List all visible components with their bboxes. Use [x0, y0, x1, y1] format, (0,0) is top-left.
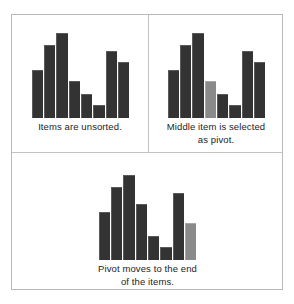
caption-pivot-selected: Middle item is selected as pivot.	[149, 121, 283, 146]
quicksort-pivot-diagram: Items are unsorted. Middle item is selec…	[11, 14, 283, 290]
bar	[44, 45, 55, 118]
bar	[106, 51, 117, 118]
pivot-bar	[205, 81, 216, 118]
panel-items-unsorted: Items are unsorted.	[12, 15, 149, 153]
bar	[136, 204, 147, 260]
bar-chart-pivot-selected	[167, 33, 266, 118]
bar	[56, 33, 67, 118]
bar	[168, 70, 179, 118]
caption-pivot-moved: Pivot moves to the end of the items.	[12, 263, 283, 288]
bar	[69, 81, 80, 118]
bar	[118, 62, 129, 118]
bar-chart-pivot-moved	[98, 175, 197, 260]
bar	[123, 175, 134, 260]
bar	[93, 105, 104, 118]
caption-line: Middle item is selected	[149, 121, 283, 134]
pivot-bar	[185, 223, 196, 260]
bar	[111, 187, 122, 260]
bar	[180, 45, 191, 118]
bar	[81, 94, 92, 118]
bar	[160, 247, 171, 260]
caption-line: as pivot.	[149, 134, 283, 147]
bar	[32, 70, 43, 118]
caption-items-unsorted: Items are unsorted.	[12, 121, 148, 134]
bar	[99, 212, 110, 260]
bar	[254, 62, 265, 118]
bar	[148, 236, 159, 260]
bar	[242, 51, 253, 118]
bar	[192, 33, 203, 118]
panel-pivot-selected: Middle item is selected as pivot.	[149, 15, 283, 153]
bar	[229, 105, 240, 118]
bar	[173, 193, 184, 260]
caption-line: of the items.	[12, 276, 283, 289]
panel-pivot-moved: Pivot moves to the end of the items.	[12, 153, 283, 289]
caption-line: Items are unsorted.	[12, 121, 148, 134]
caption-line: Pivot moves to the end	[12, 263, 283, 276]
bar-chart-unsorted	[31, 33, 130, 118]
bar	[217, 94, 228, 118]
